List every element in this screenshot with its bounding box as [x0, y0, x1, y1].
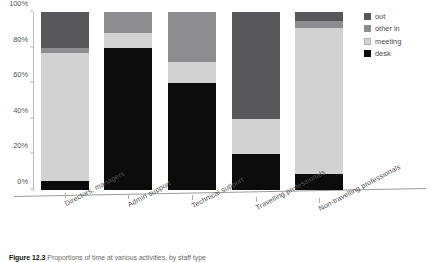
y-axis-tick-mark	[30, 153, 33, 154]
bar-segment-meeting	[168, 62, 216, 83]
legend-label: other in	[375, 24, 400, 33]
y-axis-tick-mark	[30, 82, 33, 83]
y-axis-tick-mark	[30, 117, 33, 118]
y-axis-tick-mark	[30, 46, 33, 47]
legend-swatch-icon	[364, 38, 371, 45]
legend-item-meeting[interactable]: meeting	[364, 37, 401, 46]
y-axis-tick-label: 20%	[13, 141, 28, 150]
bar-1	[41, 12, 89, 190]
legend-item-desk[interactable]: desk	[364, 49, 401, 58]
figure-caption: Figure 12.3 Proportions of time at vario…	[9, 254, 206, 261]
bar-segment-desk	[168, 83, 216, 190]
figure-number: Figure 12.3	[9, 254, 45, 261]
bar-segment-other-in	[168, 12, 216, 62]
legend-label: meeting	[375, 37, 401, 46]
y-axis-tick-label: 60%	[13, 70, 28, 79]
bar-segment-meeting	[41, 53, 89, 181]
bar-segment-meeting	[295, 28, 343, 174]
legend-item-other-in[interactable]: other in	[364, 24, 401, 33]
legend-swatch-icon	[364, 13, 371, 20]
legend-item-out[interactable]: out	[364, 12, 401, 21]
bar-5	[295, 12, 343, 190]
legend-label: out	[375, 12, 385, 21]
bar-segment-other-in	[295, 21, 343, 28]
bar-segment-meeting	[232, 119, 280, 155]
bar-segment-out	[232, 12, 280, 119]
y-axis-tick-label: 100%	[9, 0, 28, 8]
legend-swatch-icon	[364, 50, 371, 57]
bar-2	[104, 12, 152, 190]
bar-segment-meeting	[104, 33, 152, 47]
legend: outother inmeetingdesk	[364, 12, 401, 58]
bar-segment-out	[41, 12, 89, 48]
legend-swatch-icon	[364, 25, 371, 32]
y-axis-tick-mark	[30, 189, 33, 190]
bar-segment-other-in	[104, 12, 152, 33]
x-axis-tick-mark	[256, 197, 257, 202]
figure-caption-text: Proportions of time at various activitie…	[47, 254, 206, 261]
bar-segment-desk	[104, 48, 152, 190]
bar-4	[232, 12, 280, 190]
bar-segment-out	[295, 12, 343, 21]
y-axis-tick-mark	[30, 11, 33, 12]
legend-label: desk	[375, 49, 391, 58]
y-axis-tick-label: 40%	[13, 105, 28, 114]
plot-area: 0%20%40%60%80%100%	[33, 12, 351, 190]
bar-3	[168, 12, 216, 190]
figure-container: 0%20%40%60%80%100% Directors, managersAd…	[0, 0, 439, 262]
y-axis-tick-label: 0%	[17, 177, 28, 186]
y-axis-tick-label: 80%	[13, 34, 28, 43]
